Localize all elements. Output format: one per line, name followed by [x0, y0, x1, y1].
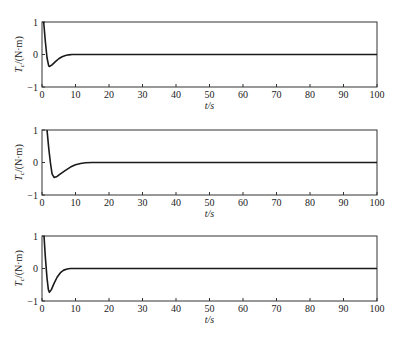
- x-tick-label: 90: [339, 303, 349, 314]
- x-tick-label: 50: [205, 89, 215, 100]
- x-tick-label: 10: [71, 197, 81, 208]
- y-axis-label: Tc/(N·m): [13, 36, 26, 72]
- x-tick-label: 90: [339, 197, 349, 208]
- y-tick-label: 1: [33, 231, 38, 242]
- y-tick-label: −1: [27, 296, 38, 307]
- figure: 0102030405060708090100−101t/sTc/(N·m)010…: [0, 0, 399, 338]
- x-tick-label: 50: [205, 303, 215, 314]
- y-tick-label: 0: [33, 157, 38, 168]
- y-tick-label: −1: [27, 82, 38, 93]
- y-tick-label: 0: [33, 49, 38, 60]
- x-tick-label: 70: [272, 89, 282, 100]
- subplot-1: 0102030405060708090100−101t/sTc/(N·m): [13, 17, 385, 112]
- x-axis-label: t/s: [205, 314, 215, 325]
- x-tick-label: 100: [370, 197, 385, 208]
- x-tick-label: 60: [238, 303, 248, 314]
- x-axis-label: t/s: [205, 100, 215, 111]
- x-tick-label: 30: [138, 197, 148, 208]
- x-tick-label: 70: [272, 303, 282, 314]
- x-tick-label: 80: [305, 197, 315, 208]
- x-tick-label: 70: [272, 197, 282, 208]
- x-tick-label: 60: [238, 197, 248, 208]
- y-tick-label: 1: [33, 125, 38, 136]
- x-tick-label: 0: [40, 303, 45, 314]
- x-tick-label: 40: [171, 197, 181, 208]
- x-axis-label: t/s: [205, 208, 215, 219]
- x-tick-label: 20: [104, 303, 114, 314]
- x-tick-label: 0: [40, 89, 45, 100]
- data-line: [47, 125, 377, 177]
- y-axis-label: Tc/(N·m): [13, 250, 26, 286]
- x-tick-label: 80: [305, 89, 315, 100]
- x-tick-label: 60: [238, 89, 248, 100]
- y-tick-label: 0: [33, 263, 38, 274]
- y-tick-label: 1: [33, 17, 38, 28]
- y-axis-label: Tc/(N·m): [13, 144, 26, 180]
- x-tick-label: 20: [104, 89, 114, 100]
- x-tick-label: 20: [104, 197, 114, 208]
- x-tick-label: 30: [138, 303, 148, 314]
- data-line: [44, 231, 377, 292]
- x-tick-label: 10: [71, 303, 81, 314]
- data-line: [43, 17, 377, 67]
- x-tick-label: 100: [370, 303, 385, 314]
- x-tick-label: 80: [305, 303, 315, 314]
- subplot-2: 0102030405060708090100−101t/sTc/(N·m): [13, 125, 385, 220]
- x-tick-label: 50: [205, 197, 215, 208]
- x-tick-label: 100: [370, 89, 385, 100]
- x-tick-label: 40: [171, 303, 181, 314]
- x-tick-label: 90: [339, 89, 349, 100]
- x-tick-label: 40: [171, 89, 181, 100]
- x-tick-label: 30: [138, 89, 148, 100]
- subplot-3: 0102030405060708090100−101t/sTc/(N·m): [13, 231, 385, 326]
- x-tick-label: 10: [71, 89, 81, 100]
- x-tick-label: 0: [40, 197, 45, 208]
- y-tick-label: −1: [27, 190, 38, 201]
